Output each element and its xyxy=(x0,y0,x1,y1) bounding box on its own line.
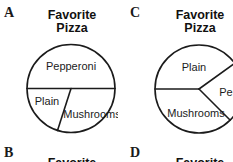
chart-a-pie: Pepperoni Plain Mushrooms xyxy=(26,43,118,135)
chart-a-title-line2: Pizza xyxy=(26,22,118,35)
chart-c-title-line2: Pizza xyxy=(154,22,233,35)
chart-a-slice-label-plain: Plain xyxy=(35,95,59,107)
worksheet-page: A Favorite Pizza Pepperoni Plain Mushroo… xyxy=(0,0,233,162)
chart-b-title-partial: Favorite xyxy=(26,157,118,162)
chart-c-title: Favorite Pizza xyxy=(154,9,233,35)
chart-c-pie: Plain Pep Mushrooms xyxy=(154,44,233,136)
chart-d-title-partial: Favorite xyxy=(154,157,233,162)
chart-c-slice-label-mushrooms: Mushrooms xyxy=(167,107,225,119)
option-letter-a[interactable]: A xyxy=(4,6,14,20)
chart-c-slice-label-plain: Plain xyxy=(182,61,206,73)
chart-c-pie-svg: Plain Pep Mushrooms xyxy=(154,44,233,136)
chart-a-title: Favorite Pizza xyxy=(26,9,118,35)
chart-a-slice-label-pepperoni: Pepperoni xyxy=(46,60,96,72)
option-letter-d[interactable]: D xyxy=(130,146,140,160)
chart-a-slice-label-mushrooms: Mushrooms xyxy=(63,108,118,120)
option-letter-c[interactable]: C xyxy=(130,6,140,20)
chart-a-pie-svg: Pepperoni Plain Mushrooms xyxy=(26,43,118,135)
chart-c-slice-label-pepperoni: Pep xyxy=(219,86,233,98)
option-letter-b[interactable]: B xyxy=(4,146,13,160)
